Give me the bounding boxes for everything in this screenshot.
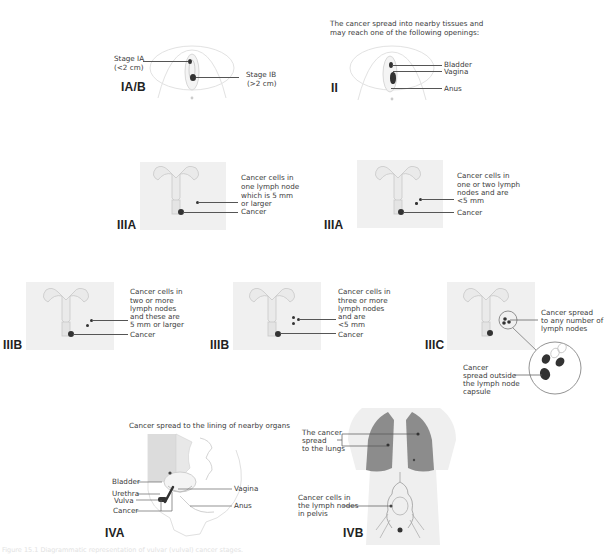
stage-label: IVB	[343, 526, 364, 540]
torso-illustration	[0, 0, 606, 557]
label-description: to the lungs	[302, 445, 345, 454]
label-description: in pelvis	[298, 510, 328, 519]
figure-caption: Figure 15.1 Diagrammatic representation …	[2, 546, 243, 554]
